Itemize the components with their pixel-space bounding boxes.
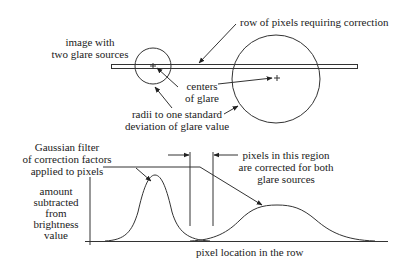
region-label: pixels in this region are corrected for … xyxy=(236,149,336,185)
image-label-line1: image with xyxy=(48,36,132,48)
y-axis-label: amount subtracted from brightness value xyxy=(30,186,82,241)
centers-label-line1: centers xyxy=(180,80,224,92)
image-label: image with two glare sources xyxy=(48,36,132,60)
large-glare-circle xyxy=(232,35,320,123)
row-label-arrow xyxy=(199,24,236,63)
centers-label-line2: of glare xyxy=(180,92,224,104)
centers-label: centers of glare xyxy=(180,80,224,104)
region-label-line2: are corrected for both xyxy=(236,161,336,173)
row-label: row of pixels requiring correction xyxy=(240,16,388,28)
centers-arrow-large xyxy=(218,78,272,84)
filter-label-line2: of correction factors xyxy=(20,153,114,165)
image-label-line2: two glare sources xyxy=(48,48,132,60)
radii-arrow-small xyxy=(155,87,172,108)
region-label-line3: glare sources xyxy=(236,173,336,185)
gaussian-curve-1 xyxy=(105,175,210,241)
y-axis-label-line5: value xyxy=(30,230,82,241)
filter-leader-1 xyxy=(136,168,151,181)
large-center-mark xyxy=(274,75,280,81)
centers-arrow-small xyxy=(157,68,178,87)
filter-label: Gaussian filter of correction factors ap… xyxy=(20,141,114,177)
radii-label-line2: deviation of glare value xyxy=(122,120,232,132)
x-axis-label: pixel location in the row xyxy=(196,246,304,258)
gaussian-curve-2 xyxy=(190,205,375,241)
radii-label: radii to one standard deviation of glare… xyxy=(122,108,232,132)
filter-label-line1: Gaussian filter xyxy=(20,141,114,153)
region-label-line1: pixels in this region xyxy=(236,149,336,161)
radii-label-line1: radii to one standard xyxy=(122,108,232,120)
filter-label-line3: applied to pixels xyxy=(20,165,114,177)
glare-correction-diagram: image with two glare sources row of pixe… xyxy=(0,0,405,266)
